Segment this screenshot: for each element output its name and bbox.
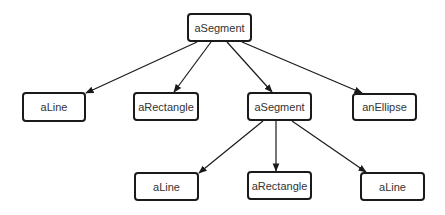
edge-root-to-ellipse1 [242,42,362,93]
node-anellipse: anEllipse [352,93,417,121]
node-root-asegment: aSegment [187,13,252,42]
node-asegment-child: aSegment [247,92,312,121]
node-arectangle: aRectangle [247,171,312,200]
edge-seg2-to-line3 [292,121,366,172]
node-arectangle: aRectangle [133,92,199,121]
edge-seg2-to-line2 [199,121,263,173]
node-aline: aLine [134,172,199,201]
edge-root-to-line1 [86,42,197,93]
edge-root-to-seg2 [227,42,272,92]
node-aline: aLine [360,172,425,201]
node-aline: aLine [22,92,86,122]
object-tree-diagram: aSegment aLine aRectangle aSegment anEll… [0,0,445,215]
